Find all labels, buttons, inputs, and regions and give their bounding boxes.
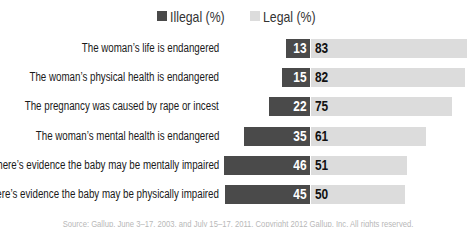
legend-item-illegal: Illegal (%) <box>157 6 237 26</box>
value-illegal: 13 <box>294 39 307 58</box>
value-legal: 51 <box>315 156 328 175</box>
value-illegal: 22 <box>294 97 307 116</box>
legend: Illegal (%) Legal (%) <box>0 6 476 26</box>
legal-swatch-icon <box>250 11 260 21</box>
bar-illegal: 15 <box>282 68 310 87</box>
bar-legal: 82 <box>311 68 465 87</box>
chart-row: There’s evidence the baby may be physica… <box>0 185 476 204</box>
row-label: The pregnancy was caused by rape or ince… <box>25 97 219 116</box>
value-legal: 82 <box>315 68 328 87</box>
value-illegal: 15 <box>294 68 307 87</box>
bar-illegal: 22 <box>269 97 310 116</box>
value-legal: 83 <box>315 39 328 58</box>
bar-legal: 50 <box>311 185 405 204</box>
legend-item-legal: Legal (%) <box>250 6 327 26</box>
chart-row: There’s evidence the baby may be mentall… <box>0 156 476 175</box>
row-label: There’s evidence the baby may be mentall… <box>0 156 219 175</box>
value-legal: 61 <box>315 127 328 146</box>
legend-label-illegal: Illegal (%) <box>170 8 225 25</box>
bar-illegal: 35 <box>244 127 310 146</box>
row-label: The woman’s life is endangered <box>82 39 219 58</box>
legend-label-legal: Legal (%) <box>263 8 316 25</box>
bar-legal: 61 <box>311 127 426 146</box>
value-illegal: 35 <box>294 127 307 146</box>
value-illegal: 46 <box>294 156 307 175</box>
bar-legal: 51 <box>311 156 407 175</box>
bar-legal: 83 <box>311 39 467 58</box>
illegal-swatch-icon <box>157 11 167 21</box>
bar-legal: 75 <box>311 97 452 116</box>
chart-row: The woman’s physical health is endangere… <box>0 68 476 87</box>
bar-illegal: 13 <box>286 39 310 58</box>
value-legal: 75 <box>315 97 328 116</box>
chart-row: The pregnancy was caused by rape or ince… <box>0 97 476 116</box>
row-label: There’s evidence the baby may be physica… <box>0 185 219 204</box>
bar-illegal: 46 <box>224 156 310 175</box>
chart-row: The woman’s mental health is endangered3… <box>0 127 476 146</box>
value-legal: 50 <box>315 185 328 204</box>
source-note: Source: Gallup, June 3–17, 2003, and Jul… <box>36 219 441 227</box>
value-illegal: 45 <box>294 185 307 204</box>
row-label: The woman’s mental health is endangered <box>35 127 219 146</box>
chart-row: The woman’s life is endangered1383 <box>0 39 476 58</box>
row-label: The woman’s physical health is endangere… <box>29 68 219 87</box>
bar-illegal: 45 <box>225 185 310 204</box>
